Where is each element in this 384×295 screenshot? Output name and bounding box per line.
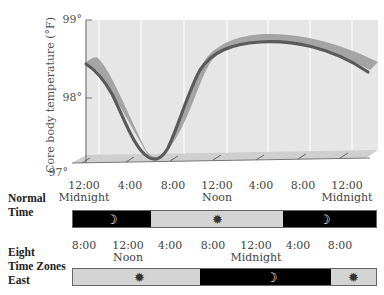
normal-label-line2: Time: [8, 205, 46, 219]
moon-icon: ☽: [266, 271, 278, 284]
day-segment: ✹: [151, 211, 283, 227]
tick: 12:00Midnight: [317, 180, 377, 204]
sun-icon: ✹: [348, 271, 359, 284]
sun-icon: ✹: [134, 271, 145, 284]
y-tick-99: 99°: [52, 13, 82, 26]
east-label-line3: East: [8, 273, 66, 287]
east-label-line2: Time Zones: [8, 259, 66, 273]
night-segment: ☽: [73, 211, 151, 227]
y-tick-97: 97°: [38, 166, 68, 179]
normal-label-line1: Normal: [8, 191, 46, 205]
moon-icon: ☽: [106, 213, 118, 226]
night-segment: ☽: [200, 269, 331, 285]
sun-icon: ✹: [212, 213, 223, 226]
tick: 8:00: [310, 240, 370, 252]
day-segment: ✹: [73, 269, 200, 285]
y-tick-98: 98°: [52, 91, 82, 104]
moon-icon: ☽: [319, 213, 331, 226]
night-segment: ☽: [283, 211, 376, 227]
normal-day-night-bar: ☽ ✹ ☽: [72, 210, 377, 228]
east-day-night-bar: ✹ ☽ ✹: [72, 268, 377, 286]
day-segment: ✹: [331, 269, 376, 285]
